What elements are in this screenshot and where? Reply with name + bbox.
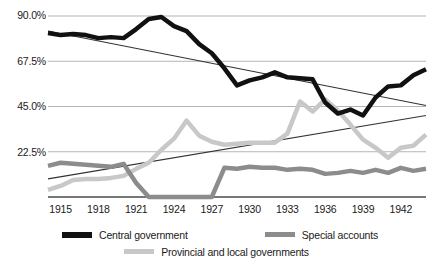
x-tick-label-1924: 1924: [154, 203, 194, 215]
x-tick-label-1939: 1939: [343, 203, 383, 215]
x-axis-tick-labels: 1915191819211924192719301933193619391942: [48, 203, 425, 221]
x-tick-label-1942: 1942: [381, 203, 421, 215]
legend-label-central-government: Central government: [99, 229, 188, 241]
trendline-central-government-trend: [48, 31, 426, 105]
line-chart: 90.0% 67.5% 45.0% 22.5% 1915191819211924…: [0, 0, 433, 275]
x-tick-label-1921: 1921: [116, 203, 156, 215]
x-tick-label-1933: 1933: [267, 203, 307, 215]
x-tick-label-1936: 1936: [305, 203, 345, 215]
legend-label-special-accounts: Special accounts: [302, 229, 378, 241]
legend-swatch-provincial-and-local-governments: [124, 249, 154, 254]
legend-row-primary: Central government Special accounts: [0, 226, 433, 243]
chart-legend: Central government Special accounts Prov…: [0, 226, 433, 260]
x-tick-label-1927: 1927: [192, 203, 232, 215]
legend-label-provincial-and-local-governments: Provincial and local governments: [161, 246, 309, 258]
legend-row-secondary: Provincial and local governments: [0, 243, 433, 260]
x-tick-label-1918: 1918: [78, 203, 118, 215]
legend-item-special-accounts: Special accounts: [265, 229, 378, 241]
series-line-central-government: [48, 17, 426, 116]
legend-swatch-special-accounts: [265, 232, 295, 237]
legend-item-provincial-and-local-governments: Provincial and local governments: [124, 246, 309, 258]
series-line-provincial-and-local-governments: [48, 99, 426, 190]
x-tick-label-1930: 1930: [230, 203, 270, 215]
x-tick-label-1915: 1915: [41, 203, 81, 215]
legend-swatch-central-government: [62, 232, 92, 238]
legend-item-central-government: Central government: [62, 229, 188, 241]
